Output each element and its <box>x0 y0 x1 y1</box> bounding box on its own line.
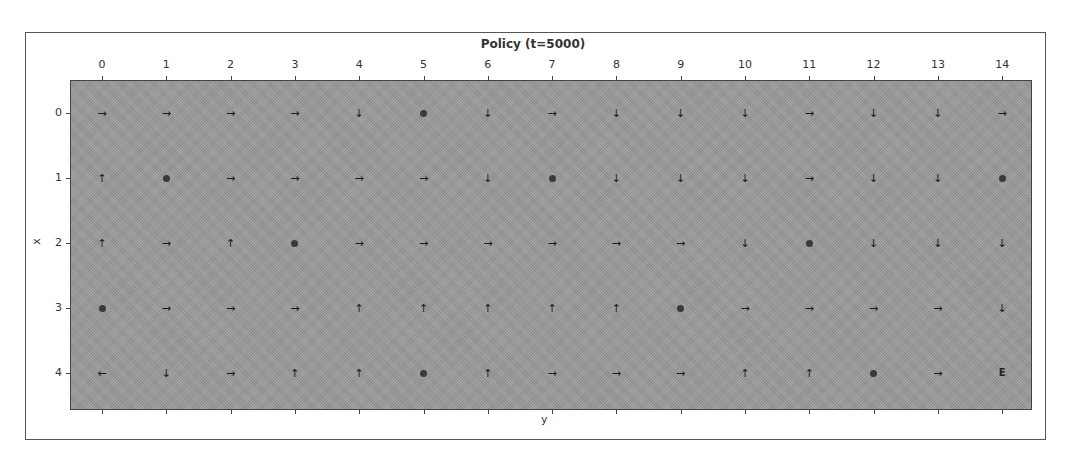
arrow-right-icon: → <box>797 168 821 188</box>
arrow-right-icon: → <box>283 168 307 188</box>
hole-marker-icon <box>283 233 307 253</box>
x-tick-mark <box>552 410 553 414</box>
arrow-up-icon: ↑ <box>604 298 628 318</box>
x-tick-label: 9 <box>666 58 696 71</box>
hole-marker-icon <box>412 103 436 123</box>
hole-marker-icon <box>412 363 436 383</box>
y-tick-label: 1 <box>46 171 62 184</box>
y-tick-label: 0 <box>46 106 62 119</box>
hole-marker-icon <box>862 363 886 383</box>
arrow-down-icon: ↓ <box>476 103 500 123</box>
x-axis-label: y <box>541 413 548 426</box>
arrow-down-icon: ↓ <box>669 168 693 188</box>
arrow-up-icon: ↑ <box>283 363 307 383</box>
x-tick-mark <box>424 410 425 414</box>
x-tick-label: 5 <box>409 58 439 71</box>
arrow-right-icon: → <box>733 298 757 318</box>
arrow-down-icon: ↓ <box>926 168 950 188</box>
arrow-up-icon: ↑ <box>540 298 564 318</box>
arrow-up-icon: ↑ <box>219 233 243 253</box>
arrow-down-icon: ↓ <box>733 168 757 188</box>
hole-marker-icon <box>90 298 114 318</box>
arrow-down-icon: ↓ <box>154 363 178 383</box>
arrow-right-icon: → <box>219 168 243 188</box>
y-tick-label: 4 <box>46 366 62 379</box>
arrow-down-icon: ↓ <box>733 103 757 123</box>
arrow-right-icon: → <box>540 233 564 253</box>
arrow-down-icon: ↓ <box>669 103 693 123</box>
arrow-down-icon: ↓ <box>733 233 757 253</box>
arrow-right-icon: → <box>926 298 950 318</box>
x-tick-mark <box>102 410 103 414</box>
hole-marker-icon <box>540 168 564 188</box>
x-tick-mark <box>488 410 489 414</box>
goal-marker: E <box>990 363 1014 383</box>
arrow-down-icon: ↓ <box>604 103 628 123</box>
arrow-down-icon: ↓ <box>926 233 950 253</box>
x-tick-mark <box>745 410 746 414</box>
x-tick-label: 0 <box>87 58 117 71</box>
chart-title: Policy (t=5000) <box>0 37 1066 51</box>
arrow-down-icon: ↓ <box>347 103 371 123</box>
arrow-right-icon: → <box>219 103 243 123</box>
arrow-right-icon: → <box>540 363 564 383</box>
x-tick-label: 13 <box>923 58 953 71</box>
arrow-right-icon: → <box>90 103 114 123</box>
arrow-down-icon: ↓ <box>476 168 500 188</box>
arrow-down-icon: ↓ <box>862 168 886 188</box>
arrow-right-icon: → <box>412 168 436 188</box>
hole-marker-icon <box>669 298 693 318</box>
x-tick-label: 8 <box>601 58 631 71</box>
x-tick-mark <box>359 410 360 414</box>
x-tick-mark <box>616 410 617 414</box>
x-tick-mark <box>295 410 296 414</box>
hole-marker-icon <box>990 168 1014 188</box>
x-tick-label: 1 <box>151 58 181 71</box>
arrow-down-icon: ↓ <box>604 168 628 188</box>
arrow-down-icon: ↓ <box>990 298 1014 318</box>
arrow-up-icon: ↑ <box>90 233 114 253</box>
arrow-right-icon: → <box>669 363 693 383</box>
arrow-right-icon: → <box>219 363 243 383</box>
x-tick-mark <box>681 410 682 414</box>
x-tick-mark <box>874 410 875 414</box>
x-tick-label: 6 <box>473 58 503 71</box>
arrow-up-icon: ↑ <box>347 298 371 318</box>
arrow-right-icon: → <box>604 363 628 383</box>
x-tick-label: 7 <box>537 58 567 71</box>
x-tick-label: 12 <box>859 58 889 71</box>
arrow-right-icon: → <box>797 298 821 318</box>
hole-marker-icon <box>154 168 178 188</box>
x-tick-mark <box>1002 410 1003 414</box>
x-tick-mark <box>809 410 810 414</box>
x-tick-label: 4 <box>344 58 374 71</box>
x-tick-label: 10 <box>730 58 760 71</box>
arrow-right-icon: → <box>476 233 500 253</box>
arrow-up-icon: ↑ <box>347 363 371 383</box>
arrow-right-icon: → <box>926 363 950 383</box>
arrow-right-icon: → <box>669 233 693 253</box>
arrow-up-icon: ↑ <box>733 363 757 383</box>
arrow-right-icon: → <box>283 103 307 123</box>
arrow-left-icon: ← <box>90 363 114 383</box>
y-tick-label: 2 <box>46 236 62 249</box>
arrow-up-icon: ↑ <box>476 298 500 318</box>
x-tick-mark <box>166 410 167 414</box>
arrow-right-icon: → <box>990 103 1014 123</box>
arrow-right-icon: → <box>347 168 371 188</box>
arrow-right-icon: → <box>412 233 436 253</box>
x-tick-mark <box>231 410 232 414</box>
arrow-right-icon: → <box>154 103 178 123</box>
arrow-up-icon: ↑ <box>797 363 821 383</box>
x-tick-mark <box>938 410 939 414</box>
arrow-right-icon: → <box>347 233 371 253</box>
x-tick-label: 11 <box>794 58 824 71</box>
arrow-down-icon: ↓ <box>862 233 886 253</box>
arrow-right-icon: → <box>283 298 307 318</box>
y-axis-label: x <box>30 238 43 245</box>
y-tick-label: 3 <box>46 301 62 314</box>
x-tick-label: 14 <box>987 58 1017 71</box>
hole-marker-icon <box>797 233 821 253</box>
arrow-right-icon: → <box>604 233 628 253</box>
arrow-right-icon: → <box>154 298 178 318</box>
